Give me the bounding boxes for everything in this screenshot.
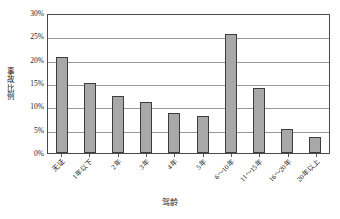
x-axis-tick-label: 无证	[5, 159, 67, 219]
bar-slot	[217, 15, 245, 153]
y-axis-tick-label: 5%	[14, 127, 44, 135]
bar[interactable]	[112, 96, 124, 153]
bar[interactable]	[197, 116, 209, 153]
bar[interactable]	[281, 129, 293, 153]
y-axis-tick-label: 0%	[14, 150, 44, 158]
bar[interactable]	[309, 137, 321, 153]
bar[interactable]	[84, 83, 96, 153]
x-axis-title: 驾龄	[0, 196, 340, 207]
y-axis-tick-label: 10%	[14, 103, 44, 111]
plot-area	[47, 14, 330, 154]
bar-slot	[273, 15, 301, 153]
bar-chart: 事故比例 0%5%10%15%20%25%30% 无证1年以下2年3年4年5年6…	[0, 0, 340, 219]
x-axis-tick-label: 1年以下	[33, 159, 95, 219]
bar-series	[48, 15, 329, 153]
x-axis-tick-label: 2年	[61, 159, 123, 219]
bar-slot	[104, 15, 132, 153]
bar[interactable]	[140, 102, 152, 153]
bar[interactable]	[168, 113, 180, 153]
bar-slot	[301, 15, 329, 153]
bar-slot	[76, 15, 104, 153]
bar-slot	[48, 15, 76, 153]
bar-slot	[188, 15, 216, 153]
x-axis-tick-label: 6～10年	[174, 159, 236, 219]
y-axis-tick-label: 25%	[14, 33, 44, 41]
x-axis-tick-labels: 无证1年以下2年3年4年5年6～10年11～15年16～20年20年以上	[47, 157, 330, 197]
x-axis-tick-label: 20年以上	[259, 159, 321, 219]
bar-slot	[132, 15, 160, 153]
y-axis-tick-label: 15%	[14, 80, 44, 88]
bar[interactable]	[225, 34, 237, 153]
x-axis-tick-label: 11～15年	[203, 159, 265, 219]
y-axis-tick-label: 30%	[14, 10, 44, 18]
bar[interactable]	[56, 57, 68, 153]
x-axis-tick-label: 4年	[118, 159, 180, 219]
x-axis-tick-label: 3年	[89, 159, 151, 219]
x-axis-tick-label: 16～20年	[231, 159, 293, 219]
x-axis-tick-label: 5年	[146, 159, 208, 219]
bar-slot	[245, 15, 273, 153]
bar-slot	[160, 15, 188, 153]
y-axis-tick-label: 20%	[14, 57, 44, 65]
bar[interactable]	[253, 88, 265, 153]
